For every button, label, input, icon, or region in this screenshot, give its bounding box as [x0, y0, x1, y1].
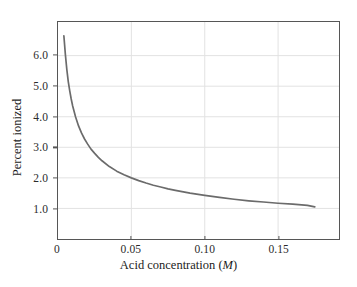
- x-tick-mark: [130, 236, 131, 240]
- x-axis-title-tail: ): [233, 258, 237, 272]
- x-axis-ticks: 00.050.100.15: [0, 0, 357, 287]
- x-axis-title-main: Acid concentration (: [120, 258, 223, 272]
- x-axis-title-unit-symbol: M: [223, 258, 233, 272]
- x-axis-title: Acid concentration (M): [0, 258, 357, 273]
- x-tick-mark: [204, 236, 205, 240]
- chart-screenshot: 1.02.03.04.05.06.0 Percent ionized 00.05…: [0, 0, 357, 287]
- x-tick-label: 0.05: [121, 243, 142, 255]
- x-tick-label: 0: [54, 243, 60, 255]
- x-tick-mark: [278, 236, 279, 240]
- x-tick-label: 0.10: [195, 243, 216, 255]
- x-tick-label: 0.15: [268, 243, 289, 255]
